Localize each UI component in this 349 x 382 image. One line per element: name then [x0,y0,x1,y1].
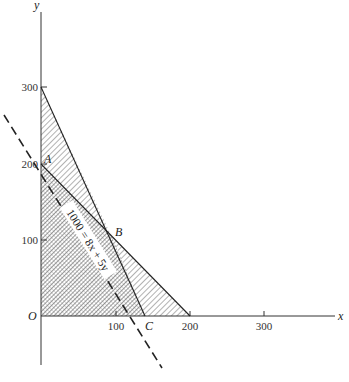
x-tick-100: 100 [108,320,125,332]
x-tick-200: 200 [182,320,199,332]
point-c-label: C [145,319,154,333]
y-tick-100: 100 [22,234,39,246]
y-tick-200: 200 [22,158,39,170]
lp-diagram: 1000 = 8x + 5y y x O 300 200 100 100 200… [0,0,349,382]
x-axis-label: x [337,309,344,323]
origin-label: O [28,309,37,323]
y-axis-label: y [33,0,40,12]
point-b-label: B [115,225,123,239]
y-tick-300: 300 [22,81,39,93]
point-a-label: A [43,152,52,166]
x-tick-300: 300 [256,320,273,332]
